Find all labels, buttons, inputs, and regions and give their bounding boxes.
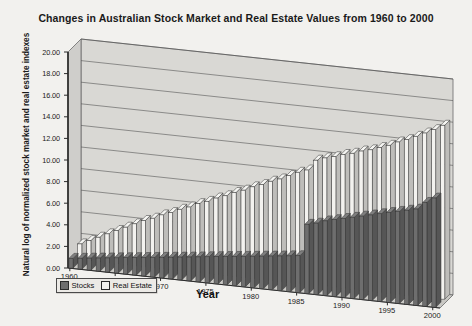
bar-stocks[interactable] [160,252,169,278]
bar-stocks[interactable] [296,251,305,293]
bar-stocks[interactable] [269,251,278,289]
y-axis-tick-label: 12.00 [26,134,60,143]
legend-item-real-estate: Real Estate [101,281,152,290]
bar-stocks[interactable] [314,218,323,294]
legend-swatch-stocks-icon [60,281,69,290]
bar-stocks[interactable] [305,219,314,293]
y-axis-tick-label: 0.00 [26,264,60,273]
x-axis-tick-label: 1980 [242,292,259,301]
bar-real-estate[interactable] [441,120,450,299]
bar-stocks[interactable] [205,252,214,283]
bar-stocks[interactable] [432,193,441,307]
y-axis-tick-label: 8.00 [26,177,60,186]
chart-root: Changes in Australian Stock Market and R… [0,0,472,326]
y-axis-tick-label: 4.00 [26,220,60,229]
bar-stocks[interactable] [169,252,178,279]
bar-stocks[interactable] [332,215,341,297]
bar-stocks[interactable] [405,205,414,304]
bar-stocks[interactable] [151,252,160,276]
bar-stocks[interactable] [350,212,359,298]
legend-swatch-real-estate-icon [101,281,110,290]
chart-legend: Stocks Real Estate [56,278,157,293]
bar-stocks[interactable] [377,209,386,301]
legend-item-stocks: Stocks [60,281,94,290]
bar-stocks[interactable] [368,210,377,300]
x-axis-tick-label: 2000 [424,311,441,320]
bar-stocks[interactable] [386,208,395,303]
legend-label-real-estate: Real Estate [113,281,152,290]
y-axis-tick-label: 20.00 [26,48,60,57]
y-axis-tick-label: 16.00 [26,91,60,100]
bar-stocks[interactable] [278,251,287,291]
x-axis-title: Year [196,288,219,300]
bar-stocks[interactable] [250,251,259,287]
x-axis-tick-label: 1995 [378,306,395,315]
bar-stocks[interactable] [423,197,432,306]
bar-stocks[interactable] [196,252,205,282]
y-axis-tick-label: 10.00 [26,156,60,165]
bar-stocks[interactable] [341,214,350,298]
x-axis-tick-label: 1990 [333,301,350,310]
bar-stocks[interactable] [214,252,223,284]
bar-stocks[interactable] [232,251,241,285]
bar-stocks[interactable] [132,253,141,275]
y-axis-tick-label: 18.00 [26,69,60,78]
bar-stocks[interactable] [178,252,187,280]
bar-stocks[interactable] [223,252,232,285]
bar-stocks[interactable] [414,204,423,305]
y-axis-tick-label: 2.00 [26,242,60,251]
bar-stocks[interactable] [396,206,405,303]
y-axis-tick-label: 6.00 [26,199,60,208]
legend-label-stocks: Stocks [72,281,95,290]
plot-left-wall [68,39,81,268]
bar-stocks[interactable] [359,211,368,299]
bar-stocks[interactable] [187,252,196,281]
bar-stocks[interactable] [287,251,296,292]
bar-stocks[interactable] [241,251,250,286]
x-axis-tick-label: 1985 [288,297,305,306]
bar-stocks[interactable] [259,251,268,288]
y-axis-tick-label: 14.00 [26,112,60,121]
bar-stocks[interactable] [141,253,150,276]
bar-stocks[interactable] [323,216,332,296]
